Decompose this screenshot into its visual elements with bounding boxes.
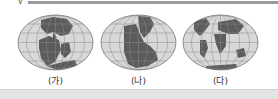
panel-label-ga: (가) — [17, 74, 94, 87]
chevron-down-icon: ∨ — [17, 0, 24, 6]
panel-label-da: (다) — [182, 74, 259, 87]
globe-na — [100, 14, 177, 71]
globe-ga — [17, 14, 94, 71]
bottom-band — [0, 89, 278, 99]
globe-da — [182, 14, 259, 71]
panel-label-na: (나) — [100, 74, 177, 87]
top-divider — [28, 1, 278, 4]
